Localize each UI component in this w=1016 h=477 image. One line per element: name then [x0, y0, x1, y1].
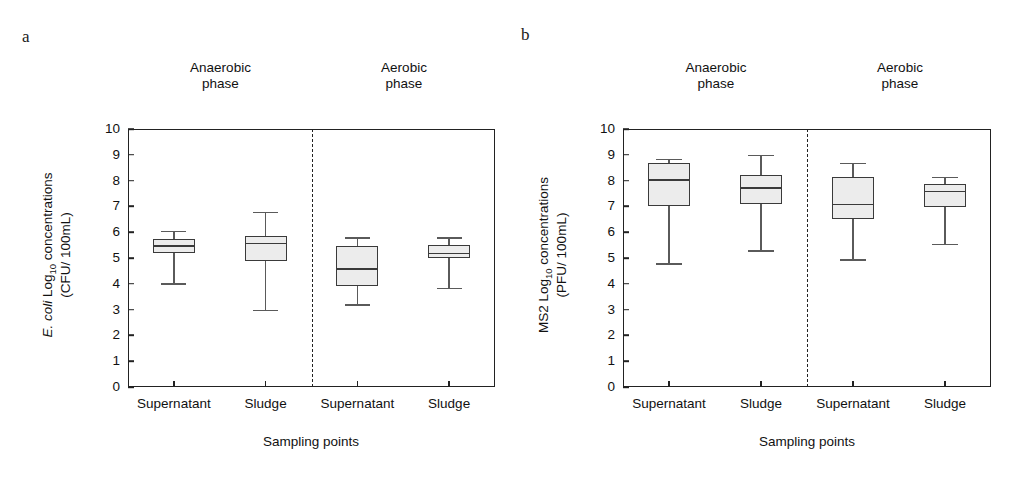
y-tick-label: 9 [94, 148, 120, 162]
y-axis-title-log-b: Log [536, 279, 551, 305]
box-median-line [428, 253, 470, 255]
box-whisker-cap-lower [840, 259, 865, 261]
box-iqr [648, 163, 690, 207]
panel-b: b Anaerobic phase Aerobic phase MS2 Log1… [508, 0, 1016, 477]
box-whisker-cap-lower [345, 304, 370, 306]
y-axis-title-b: MS2 Log10 concentrations (PFU/ 100mL) [536, 120, 570, 390]
x-category-label: Supernatant [632, 397, 706, 411]
y-axis-title-units-b: (PFU/ 100mL) [554, 120, 570, 390]
y-tick-mark [128, 283, 134, 285]
y-tick-label: 8 [94, 174, 120, 188]
x-tick-mark [944, 381, 946, 387]
y-tick-mark [623, 283, 629, 285]
y-tick-mark [128, 128, 134, 130]
y-tick-label: 1 [94, 354, 120, 368]
panel-a: a Anaerobic phase Aerobic phase E. coli … [0, 0, 508, 477]
y-tick-mark [623, 309, 629, 311]
y-tick-mark [623, 257, 629, 259]
y-tick-mark [623, 360, 629, 362]
box-median-line [153, 245, 195, 247]
x-category-label: Supernatant [816, 397, 890, 411]
y-tick-mark [128, 231, 134, 233]
y-tick-label: 8 [589, 174, 615, 188]
y-tick-label: 0 [94, 380, 120, 394]
box-median-line [245, 243, 287, 245]
y-axis-title-tail-a: concentrations [40, 172, 55, 264]
box-whisker-stem [265, 212, 266, 310]
y-tick-label: 10 [94, 122, 120, 136]
y-tick-label: 7 [589, 200, 615, 214]
y-tick-label: 5 [589, 251, 615, 265]
y-tick-mark [623, 335, 629, 337]
panel-label-a: a [22, 28, 30, 45]
x-category-label: Sludge [924, 397, 966, 411]
box-whisker-cap-lower [437, 288, 462, 290]
box-median-line [832, 204, 874, 206]
y-tick-label: 6 [589, 225, 615, 239]
x-category-label: Sludge [740, 397, 782, 411]
y-tick-label: 4 [94, 277, 120, 291]
y-tick-mark [128, 154, 134, 156]
y-tick-label: 9 [589, 148, 615, 162]
box-median-line [648, 179, 690, 181]
x-category-label: Sludge [245, 397, 287, 411]
box-whisker-cap-lower [253, 310, 278, 312]
y-tick-mark [128, 335, 134, 337]
figure-root: a Anaerobic phase Aerobic phase E. coli … [0, 0, 1016, 477]
x-tick-mark [173, 381, 175, 387]
y-axis-title-sub-b: 10 [543, 268, 554, 279]
y-axis-title-tail-b: concentrations [536, 177, 551, 269]
box-whisker-cap-upper [253, 212, 278, 214]
box-iqr [924, 184, 966, 207]
box-median-line [740, 187, 782, 189]
y-tick-mark [623, 154, 629, 156]
x-category-label: Supernatant [137, 397, 211, 411]
y-axis-title-taxon-a: E. coli [40, 301, 55, 338]
y-tick-mark [128, 206, 134, 208]
y-tick-mark [623, 180, 629, 182]
x-tick-mark [265, 381, 267, 387]
box-whisker-cap-lower [932, 244, 957, 246]
box-whisker-cap-lower [656, 263, 681, 265]
y-tick-label: 2 [589, 329, 615, 343]
x-axis-title-a: Sampling points [263, 435, 359, 449]
group-header-anaerobic-a: Anaerobic phase [128, 60, 313, 92]
box-whisker-cap-upper [840, 163, 865, 165]
box-whisker-cap-lower [161, 283, 186, 285]
y-axis-title-sub-a: 10 [47, 264, 58, 275]
group-divider [807, 129, 808, 387]
y-tick-mark [623, 206, 629, 208]
box-whisker-cap-upper [161, 231, 186, 233]
group-header-anaerobic-b: Anaerobic phase [623, 60, 809, 92]
y-tick-mark [128, 386, 134, 388]
y-tick-label: 3 [94, 303, 120, 317]
box-whisker-cap-upper [932, 177, 957, 179]
x-axis-title-b: Sampling points [759, 435, 855, 449]
x-category-label: Supernatant [321, 397, 395, 411]
x-tick-mark [668, 381, 670, 387]
y-tick-label: 1 [589, 354, 615, 368]
y-tick-label: 4 [589, 277, 615, 291]
box-median-line [336, 268, 378, 270]
y-tick-mark [623, 386, 629, 388]
y-axis-title-units-a: (CFU/ 100mL) [58, 120, 74, 390]
y-tick-label: 6 [94, 225, 120, 239]
y-tick-label: 3 [589, 303, 615, 317]
box-median-line [924, 191, 966, 193]
y-tick-label: 2 [94, 329, 120, 343]
group-divider [312, 129, 313, 387]
box-whisker-cap-upper [345, 237, 370, 239]
box-iqr [336, 246, 378, 285]
panel-label-b: b [521, 26, 530, 43]
box-iqr [245, 236, 287, 261]
y-tick-mark [128, 257, 134, 259]
y-tick-mark [623, 231, 629, 233]
y-tick-label: 10 [589, 122, 615, 136]
group-header-aerobic-a: Aerobic phase [313, 60, 495, 92]
y-tick-label: 7 [94, 200, 120, 214]
y-tick-mark [623, 128, 629, 130]
x-tick-mark [357, 381, 359, 387]
y-tick-mark [128, 180, 134, 182]
y-tick-label: 5 [94, 251, 120, 265]
y-tick-mark [128, 360, 134, 362]
